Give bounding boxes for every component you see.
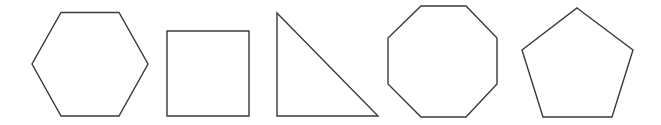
pentagon-shape (522, 8, 633, 117)
hexagon-shape (32, 13, 148, 117)
octagon-shape (388, 6, 497, 117)
right-triangle-shape (277, 13, 378, 116)
square-shape (167, 31, 249, 116)
shapes-diagram (0, 0, 661, 125)
